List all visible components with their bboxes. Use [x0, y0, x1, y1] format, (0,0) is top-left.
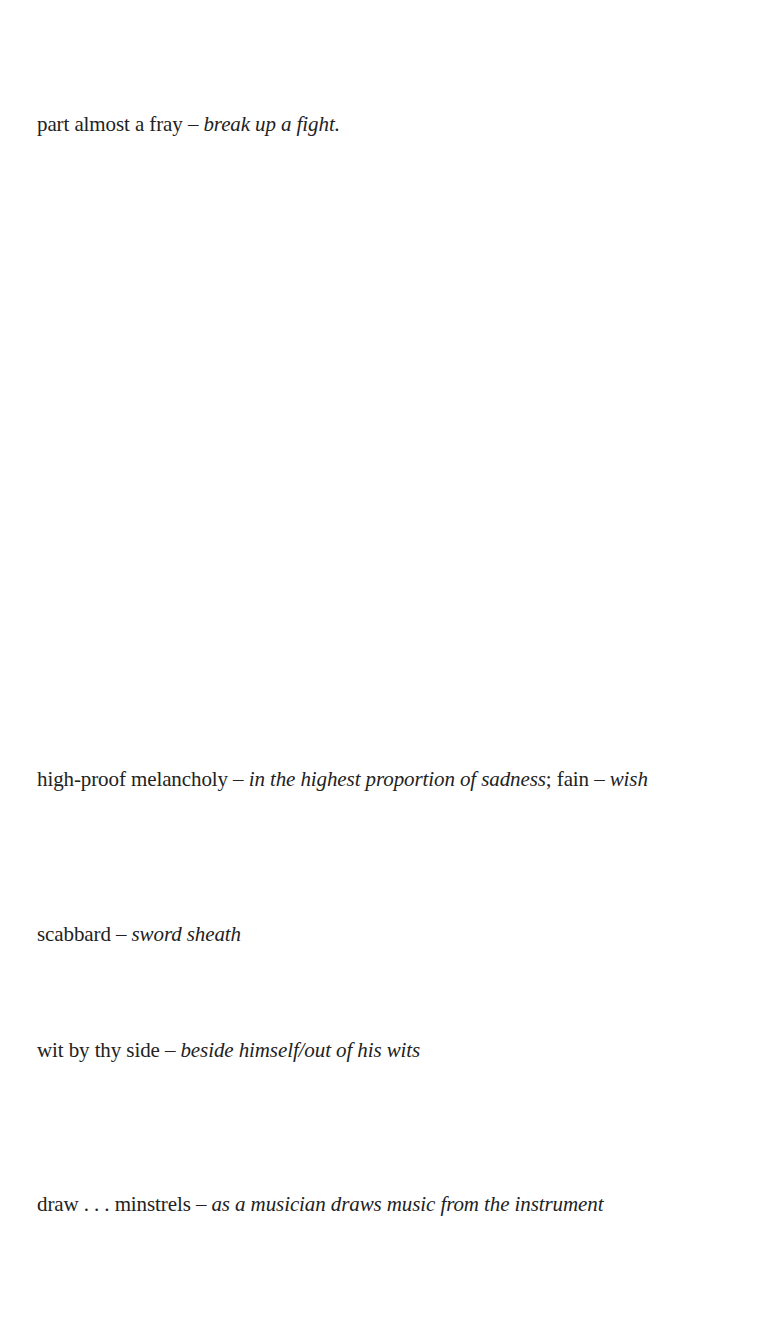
gloss-term: draw . . . minstrels [37, 1192, 191, 1216]
gloss-term: wit by thy side [37, 1038, 160, 1062]
gloss-term: part almost a fray [37, 112, 183, 136]
gloss-dash: – [589, 767, 610, 791]
gloss-definition: as a musician draws music from the instr… [211, 1192, 603, 1216]
gloss-dash: – [191, 1192, 212, 1216]
gloss-definition: beside himself/out of his wits [180, 1038, 420, 1062]
gloss-definition: wish [610, 767, 648, 791]
gloss-note: high-proof melancholy – in the highest p… [37, 765, 648, 793]
gloss-dash: – [111, 922, 132, 946]
gloss-note: wit by thy side – beside himself/out of … [37, 1036, 420, 1064]
gloss-note: scabbard – sword sheath [37, 920, 241, 948]
gloss-definition: break up a fight. [203, 112, 339, 136]
gloss-definition: sword sheath [132, 922, 241, 946]
gloss-dash: – [228, 767, 249, 791]
gloss-term: scabbard [37, 922, 111, 946]
gloss-definition: in the highest proportion of sadness [249, 767, 546, 791]
gloss-note: part almost a fray – break up a fight. [37, 110, 340, 138]
gloss-note: draw . . . minstrels – as a musician dra… [37, 1190, 603, 1218]
gloss-dash: – [160, 1038, 181, 1062]
gloss-term: high-proof melancholy [37, 767, 228, 791]
gloss-dash: – [183, 112, 204, 136]
gloss-term: ; fain [546, 767, 589, 791]
